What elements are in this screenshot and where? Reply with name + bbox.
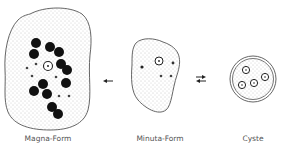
diagram-canvas: Magna-Form Minuta-Form — [0, 0, 293, 147]
arrow-to-magna — [103, 79, 113, 83]
vacuole-dot — [140, 65, 143, 68]
amoeba-lifecycle-diagram: Magna-Form Minuta-Form — [0, 0, 293, 147]
vacuole-dot — [160, 75, 163, 78]
vacuole-dot — [172, 62, 175, 65]
ingested-erythrocyte — [31, 38, 41, 48]
cyst-nucleus — [238, 81, 245, 88]
reversible-arrow — [196, 75, 206, 83]
vacuole-dot — [35, 63, 38, 66]
cyst-nucleus — [261, 73, 268, 80]
vacuole-dot — [170, 75, 173, 78]
cyste-cell: Cyste — [230, 56, 276, 143]
vacuole-dot — [26, 67, 29, 70]
magna-form-label: Magna-Form — [25, 134, 72, 143]
minuta-form-cell: Minuta-Form — [132, 39, 184, 143]
ingested-erythrocyte — [29, 86, 39, 96]
vacuole-dot — [58, 95, 61, 98]
magna-form-cell: Magna-Form — [5, 8, 91, 143]
ingested-erythrocyte — [38, 79, 48, 89]
cyst-nucleus — [242, 66, 249, 73]
vacuole-dot — [55, 76, 58, 79]
ingested-erythrocyte — [42, 89, 52, 99]
ingested-erythrocyte — [29, 49, 39, 59]
ingested-erythrocyte — [53, 109, 63, 119]
vacuole-dot — [68, 95, 71, 98]
ingested-erythrocyte — [62, 65, 72, 75]
cyste-label: Cyste — [242, 134, 264, 143]
ingested-erythrocyte — [45, 42, 55, 52]
magna-nucleus — [44, 62, 53, 71]
vacuole-dot — [31, 75, 34, 78]
minuta-nucleus — [155, 57, 163, 65]
ingested-erythrocyte — [54, 47, 64, 57]
ingested-erythrocyte — [61, 78, 71, 88]
minuta-form-label: Minuta-Form — [136, 134, 183, 143]
cyst-nucleus — [250, 79, 257, 86]
minuta-cell-outline — [132, 39, 180, 112]
